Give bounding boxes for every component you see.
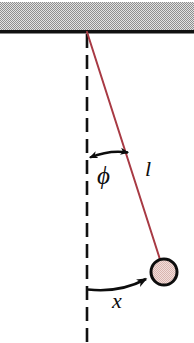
pendulum-figure: ϕ l x: [0, 0, 194, 343]
displacement-label-x: x: [112, 290, 122, 312]
length-label-l: l: [145, 158, 151, 180]
pendulum-string: [87, 32, 161, 261]
angle-arrow: [90, 152, 128, 158]
ceiling-hatch-block: [0, 2, 194, 31]
pendulum-bob: [151, 259, 177, 285]
ceiling-baseline: [0, 30, 194, 34]
angle-label-phi: ϕ: [97, 163, 110, 188]
